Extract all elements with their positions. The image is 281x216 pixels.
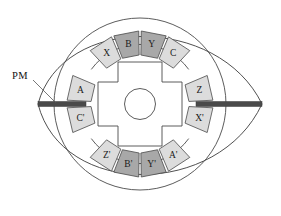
permanent-magnet-bar-right <box>196 102 262 107</box>
permanent-magnet-bar-left <box>38 102 86 107</box>
motor-diagram-canvas: XBYCZX'A'Y'B'Z'C'A PM <box>0 0 281 216</box>
motor-cross-section-figure: XBYCZX'A'Y'B'Z'C'A PM <box>0 0 281 216</box>
pm-label: PM <box>12 70 28 81</box>
rotor-shaft-bore <box>125 89 156 120</box>
